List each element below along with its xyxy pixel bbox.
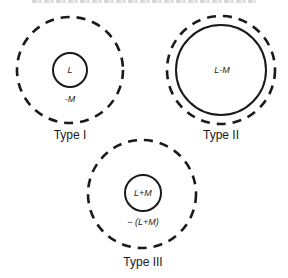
type-3-title: Type III: [123, 255, 162, 269]
type-3-surround-label: − (L+M): [127, 217, 159, 227]
type-1-title: Type I: [54, 128, 87, 142]
type-1-surround-label: -M: [65, 94, 76, 104]
type-1-panel: L -M Type I: [17, 17, 123, 142]
type-2-title: Type II: [203, 128, 239, 142]
type-3-center-label: L+M: [134, 188, 152, 198]
type-2-panel: L-M Type II: [167, 16, 275, 142]
type-2-center-label: L-M: [214, 65, 230, 75]
type-3-panel: L+M − (L+M) Type III: [88, 140, 196, 269]
receptive-field-diagram: L -M Type I L-M Type II L+M − (L+M) Type…: [0, 0, 288, 278]
type-1-center-label: L: [67, 65, 72, 75]
